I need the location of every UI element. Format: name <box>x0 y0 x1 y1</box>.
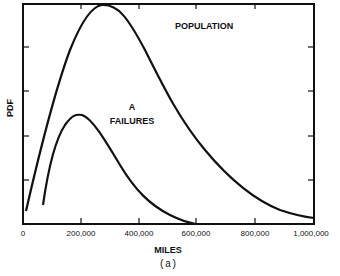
x-tick-label: 1,000,000 <box>293 229 329 238</box>
failures-label: FAILURES <box>110 116 155 126</box>
x-tick-label: 0 <box>21 229 26 238</box>
population-curve <box>26 5 314 218</box>
y-ticks <box>23 47 314 180</box>
x-tick-label: 200,000 <box>67 229 96 238</box>
plot-frame <box>23 4 314 224</box>
population-label: POPULATION <box>175 21 233 31</box>
x-axis-label: MILES <box>154 245 182 255</box>
y-axis-label: PDF <box>5 98 15 117</box>
x-ticks <box>81 4 255 224</box>
x-tick-labels: 0 200,000 400,000 600,000 800,000 1,000,… <box>21 229 330 238</box>
failures-curve <box>43 115 196 224</box>
pdf-chart: POPULATION A FAILURES PDF 0 200,000 400,… <box>0 0 340 276</box>
failures-label-a: A <box>129 102 136 112</box>
x-tick-label: 800,000 <box>241 229 270 238</box>
x-tick-label: 400,000 <box>125 229 154 238</box>
figure-caption: (a) <box>159 259 177 270</box>
x-tick-label: 600,000 <box>182 229 211 238</box>
